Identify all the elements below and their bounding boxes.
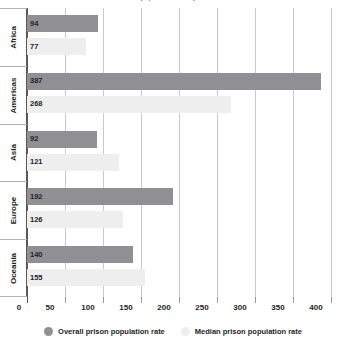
bar-value-americas-overall: 387 bbox=[30, 78, 43, 86]
bar-value-europe-median: 126 bbox=[30, 216, 43, 224]
x-tick-mark bbox=[255, 297, 256, 303]
bar-asia-median: 121 bbox=[27, 154, 119, 171]
x-tick-mark bbox=[331, 297, 332, 303]
bar-value-europe-overall: 192 bbox=[30, 193, 43, 201]
gridline bbox=[293, 8, 294, 297]
x-tick-label: 300 bbox=[233, 303, 246, 312]
category-band-africa: Africa bbox=[0, 8, 27, 66]
bar-value-oceania-overall: 140 bbox=[30, 251, 43, 259]
bar-americas-median: 268 bbox=[27, 96, 231, 113]
category-band-europe: Europe bbox=[0, 181, 27, 239]
legend-swatch-median-icon bbox=[181, 327, 190, 336]
x-tick-label: 50 bbox=[46, 303, 55, 312]
bar-value-americas-median: 268 bbox=[30, 101, 43, 109]
gridline bbox=[255, 8, 256, 297]
x-tick-mark bbox=[103, 297, 104, 303]
category-label-oceania: Oceania bbox=[0, 240, 27, 296]
category-band-americas: Americas bbox=[0, 66, 27, 124]
chart-legend: Overall prison population rate Median pr… bbox=[0, 327, 346, 336]
legend-item-median: Median prison population rate bbox=[181, 327, 302, 336]
bar-value-asia-overall: 92 bbox=[30, 135, 38, 143]
bar-value-asia-median: 121 bbox=[30, 158, 43, 166]
x-tick-label: 100 bbox=[81, 303, 94, 312]
x-tick-mark bbox=[179, 297, 180, 303]
category-band-asia: Asia bbox=[0, 124, 27, 182]
x-tick-mark bbox=[65, 297, 66, 303]
x-tick-label: 200 bbox=[157, 303, 170, 312]
gridline bbox=[331, 8, 332, 297]
category-label-americas: Americas bbox=[0, 67, 27, 124]
bar-oceania-overall: 140 bbox=[27, 246, 133, 263]
bar-africa-overall: 94 bbox=[27, 15, 98, 32]
prison-population-bar-chart: Prison population rate by continent Afri… bbox=[0, 0, 346, 347]
x-axis: 050100150200250300350400 bbox=[0, 297, 346, 315]
bar-asia-overall: 92 bbox=[27, 131, 97, 148]
x-tick-mark bbox=[217, 297, 218, 303]
bar-oceania-median: 155 bbox=[27, 269, 145, 286]
bar-europe-median: 126 bbox=[27, 211, 123, 228]
x-tick-label: 250 bbox=[195, 303, 208, 312]
bar-americas-overall: 387 bbox=[27, 73, 321, 90]
gridline bbox=[179, 8, 180, 297]
x-tick-label: 0 bbox=[17, 303, 21, 312]
bar-value-oceania-median: 155 bbox=[30, 274, 43, 282]
bar-europe-overall: 192 bbox=[27, 188, 173, 205]
legend-label-overall: Overall prison population rate bbox=[58, 327, 165, 336]
x-tick-mark bbox=[27, 297, 28, 303]
category-label-europe: Europe bbox=[0, 182, 27, 239]
bar-value-africa-overall: 94 bbox=[30, 20, 38, 28]
legend-item-overall: Overall prison population rate bbox=[44, 327, 165, 336]
x-tick-mark bbox=[293, 297, 294, 303]
legend-swatch-overall-icon bbox=[44, 327, 53, 336]
gridline bbox=[217, 8, 218, 297]
gridline bbox=[141, 8, 142, 297]
category-band-oceania: Oceania bbox=[0, 239, 27, 297]
category-label-africa: Africa bbox=[0, 9, 27, 66]
legend-label-median: Median prison population rate bbox=[195, 327, 302, 336]
chart-title: Prison population rate by continent bbox=[0, 0, 346, 2]
x-tick-label: 350 bbox=[271, 303, 284, 312]
category-label-asia: Asia bbox=[0, 125, 27, 182]
bar-value-africa-median: 77 bbox=[30, 43, 38, 51]
bar-africa-median: 77 bbox=[27, 38, 86, 55]
x-tick-label: 150 bbox=[119, 303, 132, 312]
x-tick-mark bbox=[141, 297, 142, 303]
x-tick-label: 400 bbox=[309, 303, 322, 312]
